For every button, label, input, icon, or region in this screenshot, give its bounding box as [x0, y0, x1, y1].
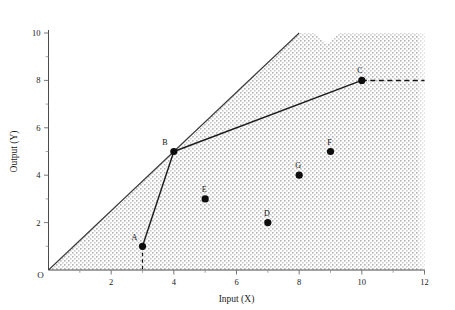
- x-axis-ticks: 24681012: [80, 270, 429, 287]
- data-point-label-a: A: [132, 233, 138, 242]
- x-tick-label: 12: [420, 277, 429, 287]
- x-axis-title: Input (X): [219, 294, 255, 305]
- data-point-a[interactable]: [139, 243, 146, 250]
- x-tick-label: 4: [172, 277, 177, 287]
- x-tick-label: 10: [358, 277, 367, 287]
- y-axis-ticks: 246810: [32, 28, 49, 246]
- data-point-label-g: G: [295, 161, 301, 170]
- data-point-g[interactable]: [296, 172, 303, 179]
- x-tick-label: 6: [234, 277, 238, 287]
- y-tick-label: 10: [32, 28, 41, 38]
- origin-label: O: [37, 270, 44, 280]
- y-tick-label: 4: [36, 170, 41, 180]
- y-tick-label: 8: [36, 75, 40, 85]
- y-tick-label: 6: [36, 123, 40, 133]
- y-axis-title: Output (Y): [9, 131, 20, 173]
- data-point-label-c: C: [357, 66, 362, 75]
- data-point-b[interactable]: [170, 148, 177, 155]
- data-point-f[interactable]: [327, 148, 334, 155]
- data-point-label-d: D: [264, 209, 270, 218]
- plot-area: 24681012246810OABCDEFGInput (X)Output (Y…: [0, 0, 455, 310]
- data-point-label-f: F: [327, 138, 332, 147]
- data-point-d[interactable]: [264, 219, 271, 226]
- data-point-label-e: E: [202, 185, 207, 194]
- x-tick-label: 2: [109, 277, 113, 287]
- data-point-label-b: B: [162, 138, 167, 147]
- shaded-region: [49, 33, 425, 270]
- data-point-c[interactable]: [358, 77, 365, 84]
- chart-figure: 24681012246810OABCDEFGInput (X)Output (Y…: [0, 0, 455, 310]
- y-tick-label: 2: [36, 218, 40, 228]
- x-tick-label: 8: [297, 277, 301, 287]
- data-point-e[interactable]: [202, 195, 209, 202]
- production-possibility-set: [49, 33, 425, 270]
